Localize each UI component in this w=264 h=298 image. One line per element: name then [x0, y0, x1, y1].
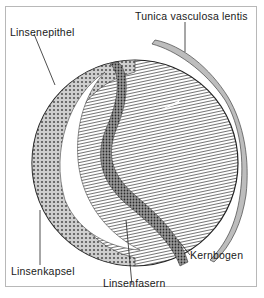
- leader-epithel: [34, 34, 55, 85]
- label-tunica-vasculosa-lentis: Tunica vasculosa lentis: [135, 10, 248, 22]
- label-linsenkapsel: Linsenkapsel: [11, 265, 75, 277]
- label-linsenepithel: Linsenepithel: [10, 26, 74, 38]
- label-kernbogen: Kernbogen: [190, 249, 243, 261]
- label-linsenfasern: Linsenfasern: [103, 277, 166, 289]
